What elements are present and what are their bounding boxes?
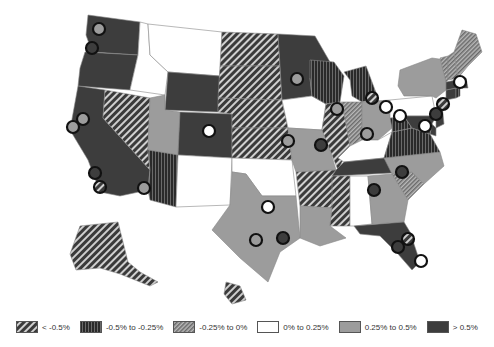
- legend-swatch-white: [257, 321, 279, 333]
- state-wy: [165, 72, 220, 112]
- state-ia: [282, 96, 326, 130]
- city-marker-charlotte: [396, 166, 408, 178]
- us-choropleth-map: [0, 0, 494, 310]
- state-hi: [224, 282, 246, 304]
- city-marker-boston: [454, 76, 466, 88]
- city-marker-seattle: [93, 23, 105, 35]
- legend-label: 0.25% to 0.5%: [365, 323, 417, 332]
- state-fl: [354, 222, 420, 270]
- state-nd: [220, 32, 280, 66]
- legend-item-lt-m05: < -0.5%: [16, 321, 70, 333]
- legend-swatch-vert-dark: [80, 321, 102, 333]
- city-marker-dallas: [262, 201, 274, 213]
- state-ms: [330, 176, 350, 226]
- legend-item-025-05: 0.25% to 0.5%: [339, 321, 417, 333]
- city-marker-miami: [415, 255, 427, 267]
- legend-swatch-diag-light: [173, 321, 195, 333]
- city-marker-tampa: [392, 241, 404, 253]
- legend-item-gt-05: > 0.5%: [427, 321, 478, 333]
- city-marker-chicago: [331, 103, 343, 115]
- city-marker-st-louis: [315, 139, 327, 151]
- legend-swatch-diag-dark: [16, 321, 38, 333]
- city-marker-houston: [277, 232, 289, 244]
- city-marker-denver: [203, 125, 215, 137]
- legend-item-m05-m025: -0.5% to -0.25%: [80, 321, 163, 333]
- city-marker-san-antonio: [250, 234, 262, 246]
- state-wi: [310, 60, 344, 104]
- city-marker-pittsburgh: [394, 110, 406, 122]
- state-ak: [70, 222, 158, 286]
- map-svg: [0, 0, 494, 310]
- city-marker-san-diego: [94, 181, 106, 193]
- state-me: [454, 30, 482, 78]
- legend-swatch-gray: [339, 321, 361, 333]
- city-marker-detroit: [366, 92, 378, 104]
- city-marker-philadelphia: [419, 120, 431, 132]
- state-nm: [176, 155, 232, 207]
- legend-label: -0.5% to -0.25%: [106, 323, 163, 332]
- legend-item-0-025: 0% to 0.25%: [257, 321, 328, 333]
- city-marker-los-angeles: [89, 167, 101, 179]
- state-ri: [456, 88, 460, 98]
- city-marker-phoenix: [138, 182, 150, 194]
- legend-swatch-dark: [427, 321, 449, 333]
- legend-label: < -0.5%: [42, 323, 70, 332]
- city-marker-cincinnati: [361, 128, 373, 140]
- city-marker-san-jose: [67, 121, 79, 133]
- map-legend: < -0.5% -0.5% to -0.25% -0.25% to 0% 0% …: [0, 312, 494, 342]
- city-marker-minneapolis: [291, 73, 303, 85]
- legend-label: -0.25% to 0%: [199, 323, 247, 332]
- legend-label: > 0.5%: [453, 323, 478, 332]
- state-az: [148, 150, 178, 207]
- state-or: [78, 52, 138, 90]
- state-ny: [398, 58, 446, 98]
- city-marker-cleveland: [380, 101, 392, 113]
- state-sd: [218, 66, 282, 100]
- city-marker-hartford: [437, 98, 449, 110]
- city-marker-atlanta: [368, 184, 380, 196]
- city-marker-kansas-city: [282, 135, 294, 147]
- city-marker-portland: [86, 42, 98, 54]
- state-ar: [296, 170, 336, 208]
- legend-label: 0% to 0.25%: [283, 323, 328, 332]
- legend-item-m025-0: -0.25% to 0%: [173, 321, 247, 333]
